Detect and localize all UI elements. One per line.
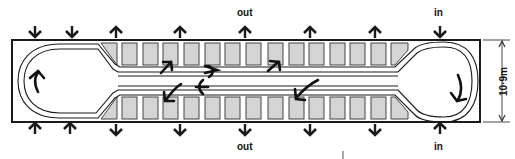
top-in-label: in (434, 8, 443, 18)
bottom-out-label: out (237, 142, 253, 152)
top-bays (101, 43, 408, 65)
bay (371, 43, 386, 65)
arrow-down-icon (174, 124, 186, 135)
arrow-down-icon (304, 124, 316, 135)
bay (309, 97, 324, 119)
arrow-up-icon (110, 27, 122, 38)
arrow-up-icon (304, 27, 316, 38)
bay (268, 97, 283, 119)
arrow-down-icon (29, 26, 41, 37)
bay (225, 97, 240, 119)
top-out-label: out (237, 8, 253, 18)
bay (122, 97, 137, 119)
bay (330, 43, 345, 65)
arrow-up-icon (64, 123, 76, 134)
dimension-label: 10·9m (498, 65, 509, 99)
bay (309, 43, 324, 65)
arrow-up-icon (29, 123, 41, 134)
bay (330, 97, 345, 119)
bay (122, 43, 137, 65)
arrow-up-icon (369, 27, 381, 38)
arrow-down-icon (434, 26, 446, 37)
bay (184, 97, 199, 119)
arrow-down-icon (369, 124, 381, 135)
arrow-down-icon (110, 124, 122, 135)
bay (184, 43, 199, 65)
bay (205, 43, 220, 65)
bay (246, 43, 261, 65)
top-entry-arrows (29, 26, 446, 38)
arrow-down-icon (66, 26, 78, 37)
bay (205, 97, 220, 119)
arrow-up-icon (239, 27, 251, 38)
bay (246, 97, 261, 119)
arrow-up-icon (174, 27, 186, 38)
bay (143, 97, 158, 119)
bay (225, 43, 240, 65)
bay (350, 97, 365, 119)
arrow-up-icon (434, 123, 446, 134)
bottom-entry-arrows (29, 123, 446, 135)
bay (143, 43, 158, 65)
bay (371, 97, 386, 119)
bay (289, 43, 304, 65)
circulation-diagram (0, 0, 515, 159)
bay (350, 43, 365, 65)
bottom-in-label: in (434, 142, 443, 152)
arrow-down-icon (239, 124, 251, 135)
bottom-bays (101, 97, 408, 119)
